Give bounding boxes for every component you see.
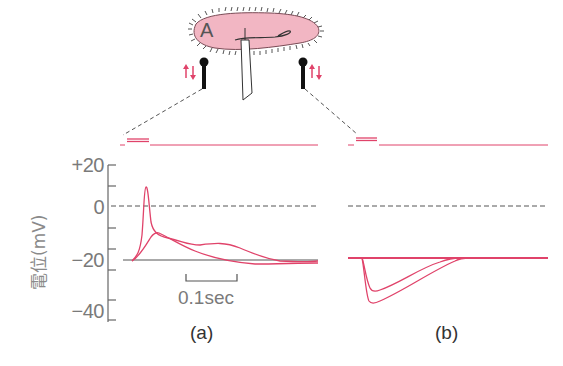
stimulus-marker-a xyxy=(120,139,318,145)
panel-label-b: (b) xyxy=(435,322,458,344)
figure: A +20 0 −20 −40 電位(mV) 0.1sec (a) (b) xyxy=(0,0,563,366)
panel-label-a: (a) xyxy=(190,322,213,344)
right-up-down-arrows-icon xyxy=(309,64,322,80)
left-stimulus-probe xyxy=(200,58,209,90)
time-scale-label: 0.1sec xyxy=(178,287,234,309)
connector-left xyxy=(123,89,202,135)
y-axis-label: 電位(mV) xyxy=(25,215,50,290)
stimulus-marker-b xyxy=(348,138,548,145)
traces-b xyxy=(348,258,548,303)
y-tick-label: +20 xyxy=(44,155,104,175)
traces-a xyxy=(132,187,318,264)
y-tick-label: −20 xyxy=(44,250,104,270)
time-scale-bar xyxy=(186,274,237,281)
left-up-down-arrows-icon xyxy=(183,64,196,80)
y-axis xyxy=(108,165,116,322)
connector-right xyxy=(305,89,357,134)
y-tick-label: −40 xyxy=(44,301,104,321)
y-tick-label: 0 xyxy=(44,197,104,217)
cell-label: A xyxy=(200,19,213,42)
right-stimulus-probe xyxy=(299,58,308,90)
